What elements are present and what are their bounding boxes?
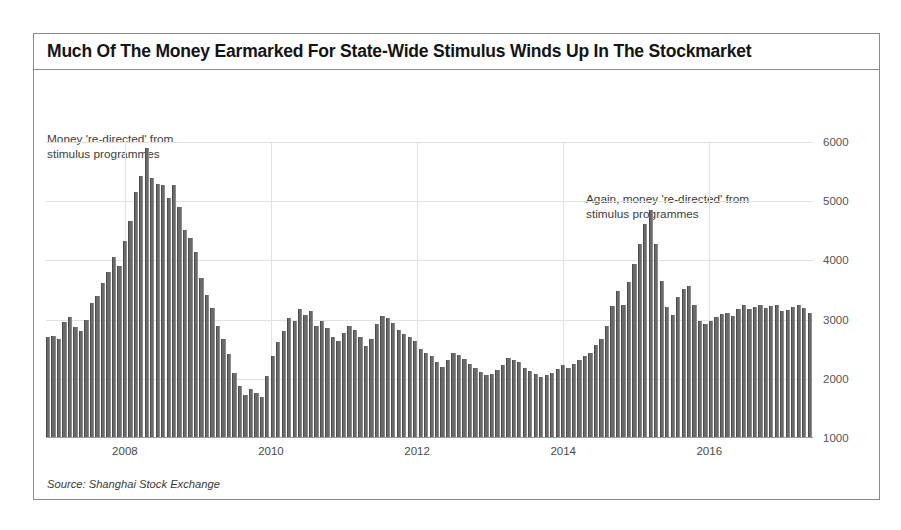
bar	[550, 373, 554, 438]
bar	[238, 386, 242, 438]
bar	[703, 324, 707, 438]
bar	[539, 377, 543, 438]
bar	[260, 397, 264, 438]
bar	[150, 178, 154, 438]
bar	[577, 360, 581, 438]
bar	[484, 375, 488, 438]
bar	[145, 148, 149, 438]
bar	[572, 364, 576, 438]
bar	[336, 341, 340, 438]
x-axis-baseline	[46, 437, 813, 438]
bar	[276, 342, 280, 438]
bar	[167, 198, 171, 438]
bar	[665, 307, 669, 438]
bar	[545, 375, 549, 438]
bar	[534, 374, 538, 438]
bar	[742, 305, 746, 438]
bar	[112, 257, 116, 438]
bar	[271, 356, 275, 438]
bar	[249, 389, 253, 438]
bar	[254, 393, 258, 438]
page-title: Much Of The Money Earmarked For State-Wi…	[34, 41, 751, 62]
bar	[758, 305, 762, 438]
x-tick-label-2016: 2016	[696, 445, 722, 457]
bar	[791, 307, 795, 438]
bar	[753, 307, 757, 438]
x-tick-label-2010: 2010	[258, 445, 284, 457]
bar	[512, 360, 516, 438]
bar	[369, 339, 373, 438]
y-tick-label-5000: 5000	[823, 195, 849, 207]
bar	[736, 309, 740, 438]
y-tick-label-2000: 2000	[823, 373, 849, 385]
bar	[725, 313, 729, 439]
bar	[293, 321, 297, 438]
plot-area	[46, 142, 813, 438]
bar	[583, 356, 587, 438]
bar	[517, 362, 521, 438]
bar	[709, 321, 713, 438]
bar	[621, 305, 625, 438]
bar	[654, 244, 658, 438]
bar	[588, 353, 592, 438]
bar	[188, 238, 192, 438]
bar	[139, 176, 143, 438]
bar	[616, 291, 620, 438]
bar	[528, 371, 532, 438]
bar	[632, 264, 636, 438]
bar	[375, 324, 379, 438]
bar	[501, 365, 505, 438]
bar	[769, 306, 773, 438]
bar	[594, 345, 598, 438]
title-band: Much Of The Money Earmarked For State-Wi…	[34, 34, 879, 70]
bar	[320, 321, 324, 438]
bar	[561, 365, 565, 438]
x-tick-label-2014: 2014	[550, 445, 576, 457]
bar	[643, 224, 647, 438]
bar	[342, 333, 346, 438]
bar	[79, 331, 83, 438]
bar	[435, 362, 439, 438]
bar	[419, 349, 423, 438]
bar	[90, 303, 94, 438]
bar	[177, 207, 181, 438]
bar	[380, 316, 384, 438]
bar	[101, 283, 105, 438]
bar	[282, 331, 286, 438]
bar	[506, 358, 510, 438]
bar	[402, 334, 406, 438]
y-tick-label-6000: 6000	[823, 136, 849, 148]
bar	[780, 311, 784, 438]
bar	[802, 308, 806, 438]
bar	[462, 359, 466, 438]
bar	[62, 322, 66, 438]
bar	[638, 244, 642, 438]
bar	[199, 278, 203, 438]
bar	[106, 272, 110, 438]
y-tick-label-4000: 4000	[823, 254, 849, 266]
bar	[298, 309, 302, 438]
bar	[172, 185, 176, 438]
plot-wrapper: Money 're-directed' from stimulus progra…	[34, 70, 879, 499]
bar	[660, 281, 664, 438]
bar	[84, 320, 88, 438]
bar	[73, 327, 77, 438]
bar	[265, 376, 269, 438]
bar	[692, 305, 696, 438]
bar	[216, 326, 220, 438]
y-tick-label-3000: 3000	[823, 314, 849, 326]
bar	[479, 372, 483, 438]
bar	[440, 367, 444, 438]
bar	[698, 321, 702, 438]
bar	[57, 339, 61, 438]
bar	[68, 317, 72, 438]
bar	[649, 210, 653, 438]
bar	[314, 326, 318, 438]
bar	[605, 326, 609, 438]
source-note: Source: Shanghai Stock Exchange	[47, 478, 220, 490]
bar	[123, 241, 127, 438]
bar	[775, 305, 779, 438]
bar	[183, 230, 187, 438]
bar	[221, 339, 225, 438]
x-tick-label-2008: 2008	[112, 445, 138, 457]
